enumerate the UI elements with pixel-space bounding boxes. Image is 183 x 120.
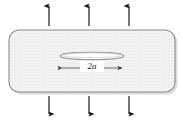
crack-plate-diagram bbox=[0, 0, 183, 120]
crack-length-label: 2a bbox=[80, 61, 104, 72]
figure-container: 2a bbox=[0, 0, 183, 120]
